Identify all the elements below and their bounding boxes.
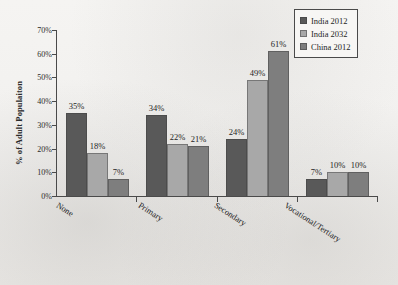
bar-value-label: 34%: [149, 103, 165, 113]
x-category-label-secondary: Secondary: [213, 200, 249, 228]
bar[interactable]: 35%: [66, 113, 87, 196]
bar[interactable]: 7%: [306, 179, 327, 196]
bar-value-label: 7%: [311, 167, 322, 177]
bar[interactable]: 24%: [226, 139, 247, 196]
bar-value-label: 22%: [170, 132, 186, 142]
bar[interactable]: 7%: [108, 179, 129, 196]
x-category-label-none: None: [55, 200, 76, 218]
y-axis-tick-labels: 70% 60% 50% 40% 30% 20% 10% 0%: [22, 0, 52, 285]
y-tick-label: 20%: [26, 144, 52, 153]
y-tick-label: 70%: [26, 26, 52, 35]
bar[interactable]: 10%: [327, 172, 348, 196]
bar-group-secondary: 24% 49% 61%: [226, 51, 289, 196]
bar-value-label: 21%: [191, 134, 207, 144]
y-tick-label: 50%: [26, 73, 52, 82]
bar[interactable]: 49%: [247, 80, 268, 196]
bar[interactable]: 10%: [348, 172, 369, 196]
y-tick-label: 60%: [26, 49, 52, 58]
x-category-label-vocational-tertiary: Vocational/Tertiary: [283, 200, 343, 244]
legend-swatch-icon: [300, 30, 307, 37]
x-tick-mark: [377, 197, 378, 202]
legend-item-india-2032[interactable]: India 2032: [300, 27, 350, 40]
y-tick-label: 10%: [26, 168, 52, 177]
bar-group-primary: 34% 22% 21%: [146, 115, 209, 196]
bar-value-label: 49%: [250, 68, 266, 78]
bar[interactable]: 34%: [146, 115, 167, 196]
bar-value-label: 24%: [229, 127, 245, 137]
bar-value-label: 10%: [330, 160, 346, 170]
x-tick-mark: [136, 197, 137, 202]
bar-value-label: 7%: [113, 167, 124, 177]
legend-label: India 2012: [311, 16, 348, 26]
x-category-label-primary: Primary: [137, 200, 165, 223]
bar[interactable]: 21%: [188, 146, 209, 196]
bar-group-none: 35% 18% 7%: [66, 113, 129, 196]
x-tick-mark: [297, 197, 298, 202]
bar-value-label: 10%: [351, 160, 367, 170]
bar-value-label: 35%: [69, 101, 85, 111]
y-tick-label: 0%: [26, 192, 52, 201]
bar[interactable]: 18%: [87, 153, 108, 196]
legend-item-china-2012[interactable]: China 2012: [300, 40, 350, 53]
bar-chart: % of Adult Populaiton 70% 60% 50% 40% 30…: [0, 0, 398, 285]
bar-value-label: 61%: [271, 39, 287, 49]
legend: India 2012 India 2032 China 2012: [294, 9, 358, 58]
y-tick-mark: [52, 196, 57, 197]
legend-item-india-2012[interactable]: India 2012: [300, 14, 350, 27]
bar-value-label: 18%: [90, 141, 106, 151]
bar-group-vocational-tertiary: 7% 10% 10%: [306, 172, 369, 196]
y-tick-label: 30%: [26, 120, 52, 129]
bar[interactable]: 61%: [268, 51, 289, 196]
legend-label: India 2032: [311, 29, 348, 39]
legend-swatch-icon: [300, 43, 307, 50]
legend-swatch-icon: [300, 17, 307, 24]
legend-label: China 2012: [311, 42, 350, 52]
y-tick-label: 40%: [26, 97, 52, 106]
bar[interactable]: 22%: [167, 144, 188, 196]
